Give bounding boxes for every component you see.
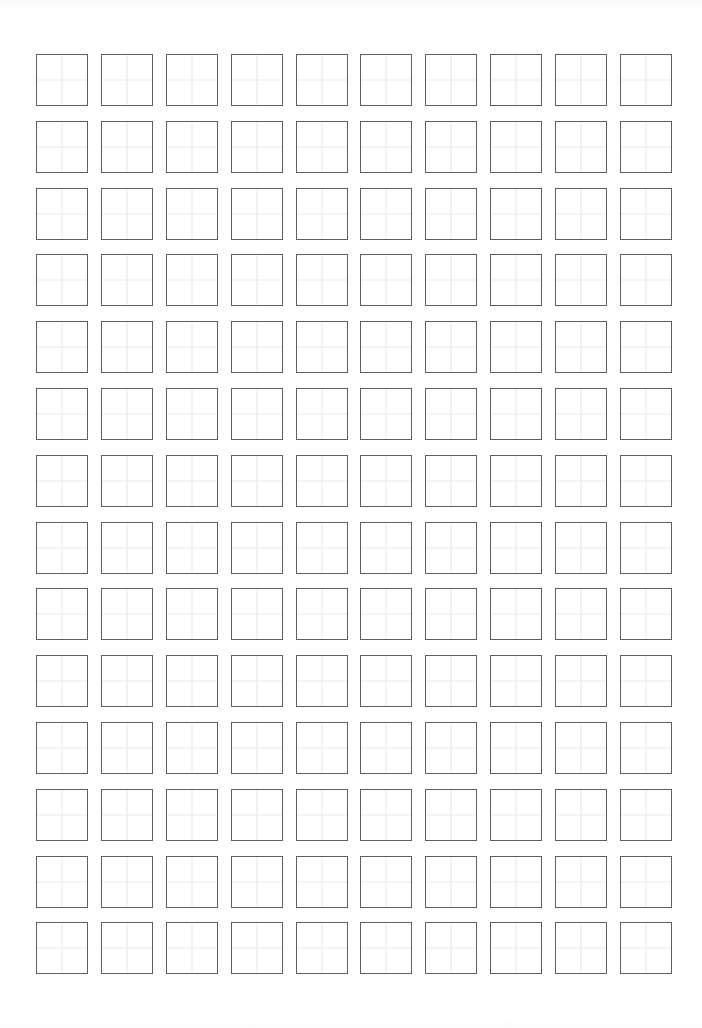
grid-cell[interactable]: [36, 121, 88, 173]
grid-cell[interactable]: [360, 54, 412, 106]
grid-cell[interactable]: [425, 522, 477, 574]
grid-cell[interactable]: [36, 655, 88, 707]
grid-cell[interactable]: [296, 588, 348, 640]
grid-cell[interactable]: [166, 254, 218, 306]
grid-cell[interactable]: [490, 455, 542, 507]
grid-cell[interactable]: [36, 588, 88, 640]
grid-cell[interactable]: [620, 722, 672, 774]
grid-cell[interactable]: [555, 522, 607, 574]
grid-cell[interactable]: [620, 321, 672, 373]
grid-cell[interactable]: [620, 522, 672, 574]
grid-cell[interactable]: [360, 388, 412, 440]
grid-cell[interactable]: [555, 856, 607, 908]
grid-cell[interactable]: [490, 922, 542, 974]
grid-cell[interactable]: [490, 388, 542, 440]
grid-cell[interactable]: [296, 722, 348, 774]
grid-cell[interactable]: [36, 388, 88, 440]
grid-cell[interactable]: [36, 54, 88, 106]
grid-cell[interactable]: [490, 789, 542, 841]
grid-cell[interactable]: [360, 722, 412, 774]
grid-cell[interactable]: [296, 54, 348, 106]
grid-cell[interactable]: [490, 655, 542, 707]
grid-cell[interactable]: [296, 655, 348, 707]
grid-cell[interactable]: [360, 789, 412, 841]
grid-cell[interactable]: [555, 321, 607, 373]
grid-cell[interactable]: [360, 455, 412, 507]
grid-cell[interactable]: [36, 722, 88, 774]
grid-cell[interactable]: [620, 655, 672, 707]
grid-cell[interactable]: [231, 922, 283, 974]
grid-cell[interactable]: [555, 588, 607, 640]
grid-cell[interactable]: [555, 254, 607, 306]
grid-cell[interactable]: [166, 388, 218, 440]
grid-cell[interactable]: [166, 856, 218, 908]
grid-cell[interactable]: [101, 856, 153, 908]
grid-cell[interactable]: [101, 455, 153, 507]
grid-cell[interactable]: [166, 121, 218, 173]
grid-cell[interactable]: [620, 54, 672, 106]
grid-cell[interactable]: [620, 188, 672, 240]
grid-cell[interactable]: [166, 321, 218, 373]
grid-cell[interactable]: [166, 188, 218, 240]
grid-cell[interactable]: [296, 121, 348, 173]
grid-cell[interactable]: [296, 522, 348, 574]
grid-cell[interactable]: [101, 922, 153, 974]
grid-cell[interactable]: [555, 188, 607, 240]
grid-cell[interactable]: [360, 588, 412, 640]
grid-cell[interactable]: [231, 321, 283, 373]
grid-cell[interactable]: [166, 655, 218, 707]
grid-cell[interactable]: [360, 121, 412, 173]
grid-cell[interactable]: [620, 121, 672, 173]
grid-cell[interactable]: [231, 522, 283, 574]
grid-cell[interactable]: [296, 321, 348, 373]
grid-cell[interactable]: [166, 789, 218, 841]
grid-cell[interactable]: [36, 522, 88, 574]
grid-cell[interactable]: [360, 522, 412, 574]
grid-cell[interactable]: [555, 121, 607, 173]
grid-cell[interactable]: [166, 455, 218, 507]
grid-cell[interactable]: [101, 188, 153, 240]
grid-cell[interactable]: [36, 188, 88, 240]
grid-cell[interactable]: [360, 655, 412, 707]
grid-cell[interactable]: [36, 455, 88, 507]
grid-cell[interactable]: [490, 321, 542, 373]
grid-cell[interactable]: [36, 789, 88, 841]
grid-cell[interactable]: [490, 588, 542, 640]
grid-cell[interactable]: [620, 856, 672, 908]
grid-cell[interactable]: [296, 254, 348, 306]
grid-cell[interactable]: [555, 789, 607, 841]
grid-cell[interactable]: [490, 188, 542, 240]
grid-cell[interactable]: [555, 54, 607, 106]
grid-cell[interactable]: [296, 455, 348, 507]
grid-cell[interactable]: [425, 54, 477, 106]
grid-cell[interactable]: [36, 254, 88, 306]
grid-cell[interactable]: [101, 254, 153, 306]
grid-cell[interactable]: [490, 254, 542, 306]
grid-cell[interactable]: [101, 655, 153, 707]
grid-cell[interactable]: [425, 922, 477, 974]
grid-cell[interactable]: [296, 922, 348, 974]
grid-cell[interactable]: [490, 121, 542, 173]
grid-cell[interactable]: [425, 254, 477, 306]
grid-cell[interactable]: [231, 54, 283, 106]
grid-cell[interactable]: [490, 722, 542, 774]
grid-cell[interactable]: [296, 188, 348, 240]
grid-cell[interactable]: [425, 789, 477, 841]
grid-cell[interactable]: [231, 789, 283, 841]
grid-cell[interactable]: [425, 455, 477, 507]
grid-cell[interactable]: [231, 655, 283, 707]
grid-cell[interactable]: [166, 588, 218, 640]
grid-cell[interactable]: [360, 321, 412, 373]
grid-cell[interactable]: [490, 856, 542, 908]
grid-cell[interactable]: [620, 789, 672, 841]
grid-cell[interactable]: [425, 722, 477, 774]
grid-cell[interactable]: [36, 321, 88, 373]
grid-cell[interactable]: [231, 856, 283, 908]
grid-cell[interactable]: [425, 856, 477, 908]
grid-cell[interactable]: [166, 722, 218, 774]
grid-cell[interactable]: [360, 922, 412, 974]
grid-cell[interactable]: [296, 789, 348, 841]
grid-cell[interactable]: [555, 655, 607, 707]
grid-cell[interactable]: [620, 588, 672, 640]
grid-cell[interactable]: [490, 54, 542, 106]
